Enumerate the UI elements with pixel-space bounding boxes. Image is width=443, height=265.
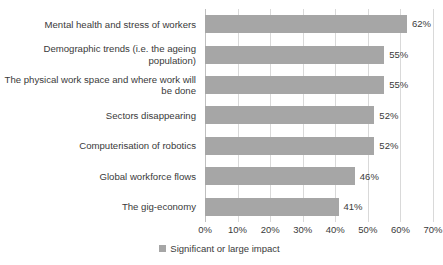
category-label-text: Global workforce flows — [99, 171, 196, 182]
category-label-text: Mental health and stress of workers — [45, 19, 196, 30]
bar[interactable] — [205, 198, 339, 216]
category-label: Global workforce flows — [0, 161, 200, 191]
x-tick-label: 0% — [198, 224, 212, 235]
gridline-70% — [433, 9, 434, 222]
x-axis-ticks: 0%10%20%30%40%50%60%70% — [205, 222, 433, 238]
bar[interactable] — [205, 137, 374, 155]
bar-band: 52% — [205, 100, 433, 130]
bar[interactable] — [205, 106, 374, 124]
bar-value-label: 55% — [389, 50, 408, 60]
category-label: The physical work space and where work w… — [0, 70, 200, 100]
bar[interactable] — [205, 76, 384, 94]
bar-band: 52% — [205, 131, 433, 161]
category-label: Mental health and stress of workers — [0, 9, 200, 39]
plot-area: 62%55%55%52%52%46%41% — [205, 9, 433, 222]
bar[interactable] — [205, 167, 355, 185]
category-axis-labels: Mental health and stress of workersDemog… — [0, 9, 200, 222]
category-label: Computerisation of robotics — [0, 131, 200, 161]
category-label-text: Computerisation of robotics — [79, 140, 196, 151]
bar-value-label: 41% — [344, 202, 363, 212]
x-tick-label: 40% — [326, 224, 345, 235]
legend-label: Significant or large impact — [170, 244, 279, 254]
bar-band: 41% — [205, 192, 433, 222]
x-tick-label: 70% — [423, 224, 442, 235]
x-tick-label: 30% — [293, 224, 312, 235]
x-tick-label: 50% — [358, 224, 377, 235]
bar-value-label: 62% — [412, 19, 431, 29]
bar-value-label: 55% — [389, 80, 408, 90]
bar-series: 62%55%55%52%52%46%41% — [205, 9, 433, 222]
bar-value-label: 52% — [379, 111, 398, 121]
bar-band: 62% — [205, 9, 433, 39]
bar-band: 46% — [205, 161, 433, 191]
bar-value-label: 52% — [379, 141, 398, 151]
bar[interactable] — [205, 46, 384, 64]
x-tick-label: 10% — [228, 224, 247, 235]
category-label: Demographic trends (i.e. the ageing popu… — [0, 39, 200, 69]
category-label-text: The gig-economy — [122, 201, 196, 212]
category-label: The gig-economy — [0, 192, 200, 222]
category-label-text: Demographic trends (i.e. the ageing popu… — [0, 43, 196, 66]
category-label-text: The physical work space and where work w… — [0, 74, 196, 97]
x-tick-label: 60% — [391, 224, 410, 235]
category-label: Sectors disappearing — [0, 100, 200, 130]
bar-value-label: 46% — [360, 172, 379, 182]
legend-swatch-icon — [159, 245, 166, 252]
category-label-text: Sectors disappearing — [106, 110, 196, 121]
x-tick-label: 20% — [261, 224, 280, 235]
chart-legend: Significant or large impact — [0, 244, 439, 254]
bar-band: 55% — [205, 39, 433, 69]
bar[interactable] — [205, 15, 407, 33]
bar-band: 55% — [205, 70, 433, 100]
